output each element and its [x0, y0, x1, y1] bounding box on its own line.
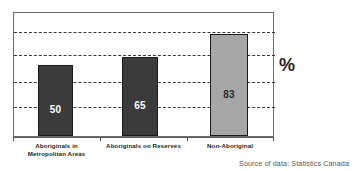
x-axis-label-line: Aboriginals on Reserves: [100, 142, 187, 150]
bar-value-label: 65: [134, 100, 146, 111]
bar-non-aboriginal[interactable]: 83: [210, 34, 248, 136]
source-attribution: Source of data: Statistics Canada: [239, 159, 349, 168]
bar-aboriginals-metropolitan[interactable]: 50: [38, 65, 73, 136]
bar-value-label: 50: [50, 104, 62, 115]
bar-aboriginals-reserves[interactable]: 65: [122, 57, 158, 136]
x-axis-label-line: Aboriginals in: [13, 142, 100, 150]
x-axis-label-aboriginals-reserves: Aboriginals on Reserves: [100, 142, 187, 150]
gridline-80: [14, 32, 275, 33]
plot-area: 50 65 83: [13, 12, 274, 137]
x-axis-tick: [273, 137, 274, 141]
x-axis-tick: [13, 137, 14, 141]
x-axis-label-aboriginals-metropolitan: Aboriginals in Metropolitan Areas: [13, 142, 100, 158]
cropped-title-remnant: [95, 0, 215, 7]
x-axis-tick: [100, 137, 101, 141]
bar-value-label: 83: [223, 89, 235, 100]
x-axis-line: [13, 137, 274, 138]
x-axis-label-non-aboriginal: Non-Aboriginal: [187, 142, 273, 150]
chart-figure: 50 65 83 Aboriginals in Metropolitan Are…: [0, 0, 355, 171]
x-axis-label-line: Metropolitan Areas: [13, 150, 100, 158]
percent-axis-label: %: [279, 55, 295, 76]
x-axis-label-line: Non-Aboriginal: [187, 142, 273, 150]
x-axis-tick: [187, 137, 188, 141]
